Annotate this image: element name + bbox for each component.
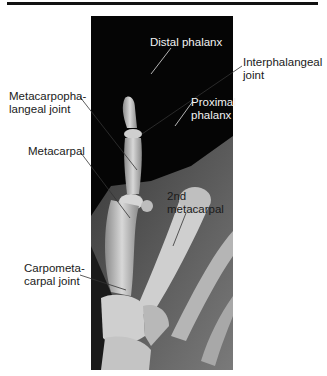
label-mcp-line2: langeal joint — [9, 103, 86, 116]
label-mcp-line1: Metacarpopha- — [9, 90, 86, 103]
label-second-metacarpal-line1: 2nd — [167, 190, 224, 203]
label-metacarpophalangeal-joint: Metacarpopha- langeal joint — [9, 90, 86, 116]
label-interphalangeal-joint-line2: joint — [243, 69, 322, 82]
top-rule — [7, 2, 318, 5]
label-proximal-phalanx-line1: Proximal — [191, 96, 236, 109]
label-distal-phalanx: Distal phalanx — [150, 36, 222, 49]
label-interphalangeal-joint: Interphalangeal joint — [243, 56, 322, 82]
label-second-metacarpal: 2nd metacarpal — [167, 190, 224, 216]
label-metacarpal: Metacarpal — [28, 145, 85, 158]
label-second-metacarpal-line2: metacarpal — [167, 203, 224, 216]
label-proximal-phalanx: Proximal phalanx — [191, 96, 236, 122]
label-cmc-line2: carpal joint — [24, 275, 85, 288]
label-cmc-line1: Carpometa- — [24, 262, 85, 275]
label-interphalangeal-joint-line1: Interphalangeal — [243, 56, 322, 69]
label-proximal-phalanx-line2: phalanx — [191, 109, 236, 122]
label-carpometacarpal-joint: Carpometa- carpal joint — [24, 262, 85, 288]
